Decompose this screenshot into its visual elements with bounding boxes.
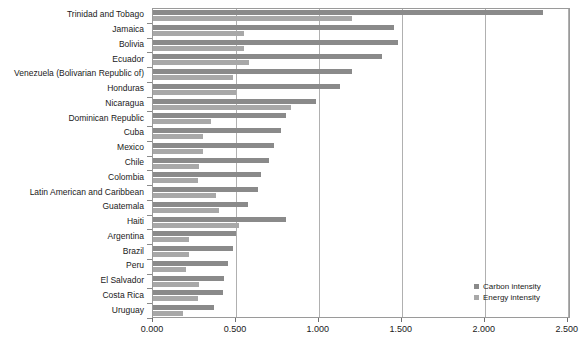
category-label: Dominican Republic	[68, 114, 144, 123]
bar-carbon-intensity	[153, 187, 258, 192]
x-tick-mark	[235, 318, 236, 322]
bar-row	[153, 24, 569, 39]
category-label: Peru	[126, 261, 144, 270]
x-tick-label: 1.000	[307, 324, 330, 334]
bar-energy-intensity	[153, 223, 239, 228]
bar-energy-intensity	[153, 252, 189, 257]
bar-carbon-intensity	[153, 54, 382, 59]
category-label: Colombia	[108, 173, 144, 182]
bar-carbon-intensity	[153, 143, 274, 148]
bar-row	[153, 245, 569, 260]
bar-energy-intensity	[153, 296, 198, 301]
bar-energy-intensity	[153, 134, 203, 139]
bar-energy-intensity	[153, 267, 186, 272]
bar-energy-intensity	[153, 164, 199, 169]
bar-energy-intensity	[153, 282, 199, 287]
x-tick-label: 0.500	[224, 324, 247, 334]
bar-energy-intensity	[153, 105, 291, 110]
category-label: Brazil	[123, 247, 144, 256]
bar-carbon-intensity	[153, 217, 286, 222]
x-tick-mark	[567, 318, 568, 322]
x-tick-label: 2.500	[555, 324, 578, 334]
legend-item-energy-intensity: Energy intensity	[474, 292, 541, 303]
bar-carbon-intensity	[153, 231, 236, 236]
legend: Carbon intensity Energy intensity	[474, 281, 541, 303]
bar-energy-intensity	[153, 208, 219, 213]
x-tick-mark	[484, 318, 485, 322]
bar-row	[153, 53, 569, 68]
bar-row	[153, 98, 569, 113]
bar-carbon-intensity	[153, 290, 223, 295]
bar-carbon-intensity	[153, 305, 214, 310]
bar-energy-intensity	[153, 149, 203, 154]
bar-row	[153, 39, 569, 54]
category-axis-labels: Trinidad and TobagoJamaicaBoliviaEcuador…	[0, 8, 148, 318]
category-label: Ecuador	[112, 55, 144, 64]
category-label: Chile	[125, 158, 144, 167]
bar-energy-intensity	[153, 193, 216, 198]
bar-carbon-intensity	[153, 84, 340, 89]
legend-item-carbon-intensity: Carbon intensity	[474, 281, 541, 292]
bar-energy-intensity	[153, 46, 244, 51]
bar-energy-intensity	[153, 75, 233, 80]
category-label: Costa Rica	[102, 291, 144, 300]
bar-carbon-intensity	[153, 25, 394, 30]
category-label: Guatemala	[102, 202, 144, 211]
bar-carbon-intensity	[153, 246, 233, 251]
bar-carbon-intensity	[153, 10, 543, 15]
category-label: Cuba	[124, 128, 144, 137]
category-label: Nicaragua	[105, 99, 144, 108]
bar-energy-intensity	[153, 60, 249, 65]
category-label: Honduras	[107, 84, 144, 93]
category-label: Mexico	[117, 143, 144, 152]
legend-swatch-icon-energy	[474, 295, 479, 300]
category-label: Latin American and Caribbean	[30, 188, 144, 197]
bar-row	[153, 230, 569, 245]
bar-energy-intensity	[153, 90, 236, 95]
bar-carbon-intensity	[153, 40, 398, 45]
bar-row	[153, 127, 569, 142]
bar-energy-intensity	[153, 119, 211, 124]
bar-rows	[153, 9, 569, 317]
plot-area	[152, 8, 570, 318]
x-tick-label: 1.500	[390, 324, 413, 334]
category-label: Trinidad and Tobago	[67, 10, 144, 19]
category-label: Bolivia	[119, 40, 144, 49]
x-tick-mark	[152, 318, 153, 322]
bar-energy-intensity	[153, 237, 189, 242]
legend-label-carbon: Carbon intensity	[483, 281, 541, 292]
bar-energy-intensity	[153, 16, 352, 21]
bar-row	[153, 142, 569, 157]
x-tick-label: 0.000	[141, 324, 164, 334]
bar-row	[153, 304, 569, 319]
x-axis: 0.0000.5001.0001.5002.0002.500	[0, 318, 587, 338]
bar-row	[153, 9, 569, 24]
x-tick-label: 2.000	[472, 324, 495, 334]
category-label: Jamaica	[112, 25, 144, 34]
bar-row	[153, 112, 569, 127]
bar-carbon-intensity	[153, 202, 248, 207]
bar-row	[153, 186, 569, 201]
bar-row	[153, 201, 569, 216]
x-tick-mark	[318, 318, 319, 322]
bar-row	[153, 68, 569, 83]
bar-carbon-intensity	[153, 69, 352, 74]
bar-carbon-intensity	[153, 261, 228, 266]
bar-carbon-intensity	[153, 276, 224, 281]
bar-energy-intensity	[153, 178, 198, 183]
x-tick-mark	[401, 318, 402, 322]
bar-carbon-intensity	[153, 128, 281, 133]
category-label: Argentina	[108, 232, 144, 241]
category-label: Haiti	[127, 217, 144, 226]
legend-label-energy: Energy intensity	[483, 292, 540, 303]
bar-energy-intensity	[153, 31, 244, 36]
bar-carbon-intensity	[153, 113, 286, 118]
category-label: El Salvador	[101, 276, 144, 285]
bar-carbon-intensity	[153, 172, 261, 177]
bar-row	[153, 157, 569, 172]
bar-energy-intensity	[153, 311, 183, 316]
bar-row	[153, 260, 569, 275]
bar-row	[153, 216, 569, 231]
bar-carbon-intensity	[153, 99, 316, 104]
bar-row	[153, 171, 569, 186]
